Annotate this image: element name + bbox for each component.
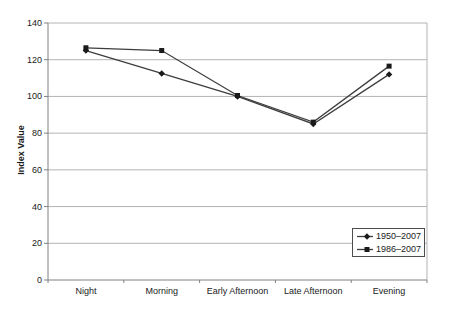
series-line-0 <box>86 51 389 124</box>
legend-label: 1950–2007 <box>376 230 421 243</box>
legend: 1950–2007 1986–2007 <box>352 228 425 257</box>
y-tick-label: 120 <box>27 55 42 65</box>
legend-item-1986-2007: 1986–2007 <box>356 243 421 256</box>
y-tick-label: 100 <box>27 91 42 101</box>
y-tick-label: 20 <box>32 238 42 248</box>
legend-label: 1986–2007 <box>376 243 421 256</box>
data-point-1-1 <box>159 48 164 53</box>
data-point-1-4 <box>387 64 392 69</box>
line-chart: 020406080100120140NightMorningEarly Afte… <box>0 0 449 316</box>
legend-marker-glyph-0 <box>364 233 370 239</box>
x-category-label: Morning <box>145 286 178 296</box>
legend-item-1950-2007: 1950–2007 <box>356 230 421 243</box>
y-tick-label: 0 <box>37 275 42 285</box>
x-category-label: Early Afternoon <box>207 286 269 296</box>
x-category-label: Night <box>75 286 97 296</box>
data-point-0-1 <box>159 70 165 76</box>
data-point-1-3 <box>311 120 316 125</box>
legend-marker-glyph-1 <box>365 247 370 252</box>
y-axis-title: Index Value <box>16 125 26 175</box>
y-tick-label: 60 <box>32 165 42 175</box>
square-line-marker-icon <box>356 245 373 254</box>
data-point-1-0 <box>83 45 88 50</box>
data-point-1-2 <box>235 93 240 98</box>
series-line-1 <box>86 48 389 122</box>
x-category-label: Late Afternoon <box>284 286 343 296</box>
y-tick-label: 80 <box>32 128 42 138</box>
plot-area: 020406080100120140NightMorningEarly Afte… <box>0 0 449 316</box>
y-tick-label: 40 <box>32 202 42 212</box>
y-tick-label: 140 <box>27 18 42 28</box>
x-category-label: Evening <box>373 286 406 296</box>
diamond-line-marker-icon <box>356 232 373 241</box>
